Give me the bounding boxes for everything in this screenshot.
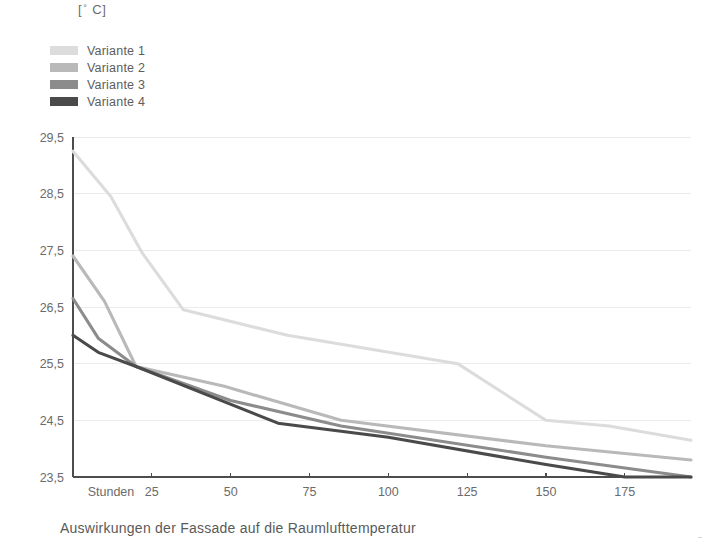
chart-svg: 23,524,525,526,527,528,529,5 Stunden2550… bbox=[0, 0, 708, 510]
y-axis-labels-group: 23,524,525,526,527,528,529,5 bbox=[40, 131, 64, 485]
x-tick-label: 75 bbox=[303, 485, 317, 499]
x-tick-label: 175 bbox=[614, 485, 635, 499]
y-tick-label: 27,5 bbox=[40, 244, 64, 258]
x-tick-label: 125 bbox=[457, 485, 478, 499]
x-axis-labels-group: Stunden255075100125150175 bbox=[88, 485, 636, 499]
series-line-variante-1 bbox=[73, 151, 691, 440]
y-tick-label: 29,5 bbox=[40, 131, 64, 145]
x-tick-label: 50 bbox=[224, 485, 238, 499]
figure-caption: Auswirkungen der Fassade auf die Raumluf… bbox=[60, 520, 416, 536]
series-line-variante-4 bbox=[73, 335, 691, 477]
x-tick-label: 25 bbox=[145, 485, 159, 499]
y-tick-label: 26,5 bbox=[40, 301, 64, 315]
y-tick-label: 23,5 bbox=[40, 471, 64, 485]
x-tick-label: 100 bbox=[378, 485, 399, 499]
x-axis-origin-label: Stunden bbox=[88, 485, 135, 499]
caption-rule bbox=[698, 537, 702, 538]
y-tick-label: 28,5 bbox=[40, 187, 64, 201]
series-group bbox=[73, 151, 691, 477]
y-tick-label: 24,5 bbox=[40, 414, 64, 428]
y-tick-label: 25,5 bbox=[40, 357, 64, 371]
chart-plot-area: 23,524,525,526,527,528,529,5 Stunden2550… bbox=[0, 0, 708, 510]
x-tick-label: 150 bbox=[536, 485, 557, 499]
